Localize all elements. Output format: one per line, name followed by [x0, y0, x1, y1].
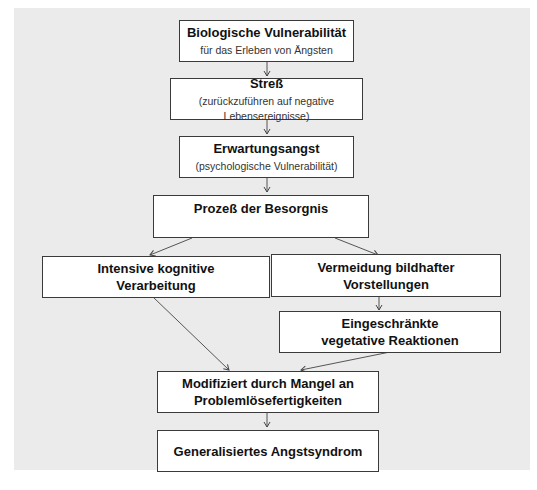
node-subtitle: (zurückzuführen auf negative Lebensereig…: [171, 94, 362, 124]
node-subtitle: für das Erleben von Ängsten: [200, 43, 333, 58]
node-stress: Streß (zurückzuführen auf negative Leben…: [170, 78, 363, 120]
node-title-line2: Problemlösefertigkeiten: [194, 392, 342, 409]
node-title: Streß: [250, 75, 283, 92]
arrow-kognitiv-mangel: [153, 297, 229, 370]
arrow-besorgnis-kognitiv: [150, 238, 192, 255]
node-vermeidung-bildhafter-vorstellungen: Vermeidung bildhafter Vorstellungen: [271, 254, 501, 297]
node-title-line1: Vermeidung bildhafter: [317, 259, 454, 276]
node-prozess-der-besorgnis: Prozeß der Besorgnis: [153, 195, 369, 238]
node-title-line2: Verarbeitung: [116, 277, 195, 294]
node-title: Generalisiertes Angstsyndrom: [174, 443, 363, 460]
node-title-line2: vegetative Reaktionen: [321, 332, 458, 349]
node-title-line1: Intensive kognitive: [97, 260, 214, 277]
node-generalisiertes-angstsyndrom: Generalisiertes Angstsyndrom: [157, 430, 379, 472]
node-title: Prozeß der Besorgnis: [194, 200, 328, 217]
node-subtitle: (psychologische Vulnerabilität): [195, 159, 337, 174]
node-title-line1: Eingeschränkte: [342, 315, 439, 332]
node-title-line2: Vorstellungen: [343, 276, 429, 293]
arrow-besorgnis-vermeidung: [335, 238, 378, 255]
node-mangel-problemloesefertigkeiten: Modifiziert durch Mangel an Problemlösef…: [157, 371, 379, 413]
node-biologische-vulnerabilitaet: Biologische Vulnerabilität für das Erleb…: [179, 20, 354, 62]
node-title: Erwartungsangst: [213, 140, 319, 157]
node-eingeschraenkte-vegetative-reaktionen: Eingeschränkte vegetative Reaktionen: [279, 311, 501, 353]
connector-arrows: [0, 0, 537, 490]
node-title-line1: Modifiziert durch Mangel an: [182, 375, 354, 392]
node-title: Biologische Vulnerabilität: [187, 24, 346, 41]
arrow-vegetativ-mangel: [301, 352, 390, 370]
node-intensive-kognitive-verarbeitung: Intensive kognitive Verarbeitung: [42, 256, 270, 298]
node-erwartungsangst: Erwartungsangst (psychologische Vulnerab…: [179, 136, 354, 178]
